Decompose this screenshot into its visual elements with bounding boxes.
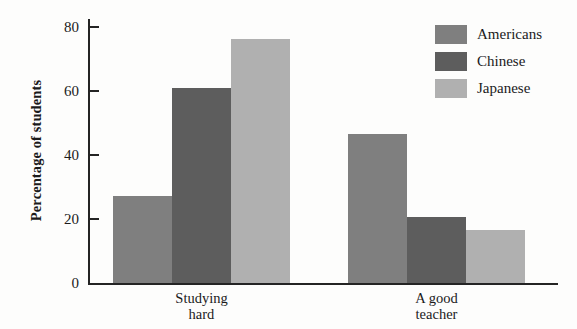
y-axis-line — [88, 19, 90, 285]
y-axis-label: Percentage of students — [28, 41, 45, 261]
x-axis-line — [88, 283, 558, 285]
bar-japanese-1 — [466, 230, 525, 283]
legend-item-chinese: Chinese — [435, 48, 542, 75]
y-tick-label: 80 — [64, 18, 79, 35]
legend-label: Americans — [477, 26, 542, 43]
legend-swatch-icon — [435, 25, 467, 44]
legend-label: Japanese — [477, 80, 530, 97]
bar-chart: Percentage of students 020406080 Studyin… — [0, 0, 577, 329]
bar-chinese-0 — [172, 88, 231, 283]
x-category-label-1: A good teacher — [348, 290, 525, 322]
y-tick-label: 0 — [72, 275, 80, 292]
y-tick-label: 20 — [64, 210, 79, 227]
bar-americans-1 — [348, 134, 407, 283]
y-tick-mark — [90, 26, 99, 28]
x-category-label-0: Studying hard — [113, 290, 290, 322]
legend-swatch-icon — [435, 52, 467, 71]
legend-label: Chinese — [477, 53, 525, 70]
y-tick-mark — [90, 154, 99, 156]
y-tick-label: 60 — [64, 82, 79, 99]
legend: AmericansChineseJapanese — [435, 21, 542, 102]
legend-item-japanese: Japanese — [435, 75, 542, 102]
y-tick-mark — [90, 218, 99, 220]
bar-americans-0 — [113, 196, 172, 283]
legend-swatch-icon — [435, 79, 467, 98]
y-tick-label: 40 — [64, 146, 79, 163]
bar-chinese-1 — [407, 217, 466, 283]
y-tick-mark — [90, 90, 99, 92]
legend-item-americans: Americans — [435, 21, 542, 48]
bar-japanese-0 — [231, 39, 290, 283]
